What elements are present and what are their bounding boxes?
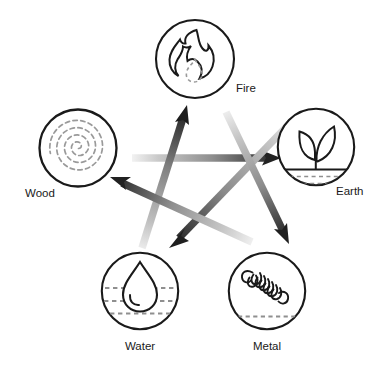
node-label-fire: Fire: [236, 82, 256, 94]
node-label-wood: Wood: [25, 187, 55, 199]
arrow-water-to-fire: [142, 105, 189, 248]
node-metal[interactable]: Metal: [229, 253, 305, 352]
node-fire[interactable]: Fire: [156, 20, 256, 98]
node-label-metal: Metal: [253, 340, 281, 352]
node-label-earth: Earth: [336, 185, 364, 197]
arrow-group: [110, 105, 295, 248]
node-wood[interactable]: Wood: [25, 110, 116, 200]
diagram-canvas: Fire Earth: [0, 0, 390, 376]
node-label-water: Water: [125, 340, 155, 352]
node-earth[interactable]: Earth: [278, 109, 364, 197]
arrow-earth-to-water: [169, 118, 295, 248]
earth-circle-outline: [278, 109, 354, 185]
node-water[interactable]: Water: [102, 253, 178, 352]
five-elements-diagram: Fire Earth: [0, 0, 390, 376]
